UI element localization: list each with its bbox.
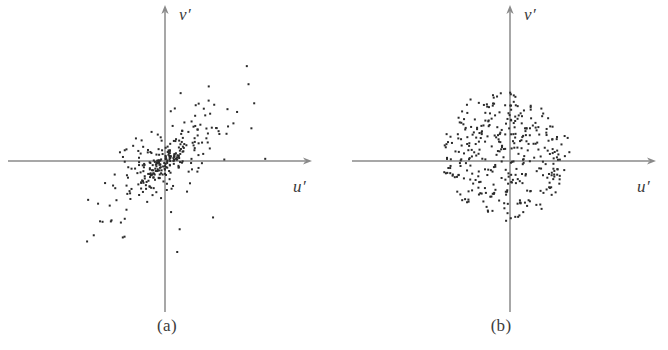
data-point — [169, 152, 171, 154]
data-point — [137, 150, 139, 152]
data-point — [446, 158, 448, 160]
data-point — [509, 114, 511, 116]
data-point — [517, 203, 519, 205]
data-point — [145, 188, 147, 190]
data-point — [478, 170, 480, 172]
data-point — [468, 201, 470, 203]
data-point — [489, 124, 491, 126]
data-point — [450, 136, 452, 138]
data-point — [197, 154, 199, 156]
data-point — [546, 177, 548, 179]
data-point — [197, 134, 199, 136]
data-point — [513, 122, 515, 124]
data-point — [140, 171, 142, 173]
data-point — [454, 176, 456, 178]
data-point — [447, 167, 449, 169]
data-point — [540, 155, 542, 157]
data-point — [152, 169, 154, 171]
data-point — [479, 149, 481, 151]
data-point — [159, 164, 161, 166]
data-point — [533, 143, 535, 145]
data-point — [109, 205, 111, 207]
data-point — [456, 176, 458, 178]
data-point — [541, 208, 543, 210]
panel-caption-b: (b) — [334, 316, 668, 336]
data-point — [194, 115, 196, 117]
data-point — [462, 123, 464, 125]
data-point — [510, 217, 512, 219]
data-point — [553, 157, 555, 159]
data-point — [463, 118, 465, 120]
data-point — [500, 148, 502, 150]
data-point — [550, 186, 552, 188]
data-point — [181, 130, 183, 132]
data-point — [512, 140, 514, 142]
data-point — [496, 154, 498, 156]
data-point — [505, 220, 507, 222]
data-point — [144, 177, 146, 179]
data-point — [559, 159, 561, 161]
data-point — [202, 153, 204, 155]
data-point — [484, 187, 486, 189]
data-point — [507, 183, 509, 185]
data-point — [524, 202, 526, 204]
data-point — [460, 122, 462, 124]
data-point — [198, 142, 200, 144]
data-point — [536, 129, 538, 131]
data-point — [155, 165, 157, 167]
data-point — [165, 156, 167, 158]
data-point — [152, 194, 154, 196]
data-point — [475, 179, 477, 181]
data-point — [484, 112, 486, 114]
data-point — [478, 194, 480, 196]
data-point — [164, 168, 166, 170]
data-point — [560, 143, 562, 145]
data-point — [134, 168, 136, 170]
data-point — [489, 196, 491, 198]
data-point — [471, 189, 473, 191]
data-point — [564, 155, 566, 157]
data-point — [473, 131, 475, 133]
data-point — [515, 182, 517, 184]
data-point — [513, 142, 515, 144]
data-point — [201, 162, 203, 164]
data-point — [548, 173, 550, 175]
data-point — [540, 190, 542, 192]
data-point — [518, 114, 520, 116]
data-point — [138, 161, 140, 163]
data-point — [170, 110, 172, 112]
data-point — [469, 165, 471, 167]
data-point — [503, 202, 505, 204]
data-point — [132, 145, 134, 147]
data-point — [493, 193, 495, 195]
data-point — [207, 141, 209, 143]
data-point — [496, 126, 498, 128]
data-point — [145, 184, 147, 186]
data-point — [160, 197, 162, 199]
data-point — [250, 127, 252, 129]
data-point — [552, 163, 554, 165]
data-point — [557, 159, 559, 161]
data-point — [530, 109, 532, 111]
data-point — [530, 105, 532, 107]
data-point — [199, 124, 201, 126]
data-point — [178, 146, 180, 148]
data-point — [190, 162, 192, 164]
data-point — [183, 147, 185, 149]
data-point — [473, 151, 475, 153]
data-point — [480, 137, 482, 139]
data-point — [515, 168, 517, 170]
data-point — [191, 120, 193, 122]
data-point — [153, 187, 155, 189]
data-point — [451, 142, 453, 144]
data-point — [125, 209, 127, 211]
data-point — [515, 104, 517, 106]
data-point — [99, 220, 101, 222]
data-point — [140, 188, 142, 190]
data-point — [152, 164, 154, 166]
data-point — [487, 120, 489, 122]
data-point — [227, 125, 229, 127]
data-point — [179, 228, 181, 230]
data-point — [454, 150, 456, 152]
data-point — [129, 192, 131, 194]
